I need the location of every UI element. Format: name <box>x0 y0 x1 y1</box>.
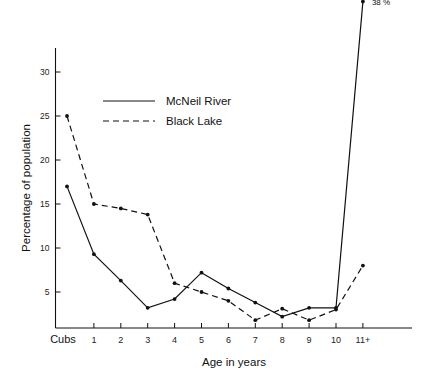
legend-label-black-lake: Black Lake <box>166 115 222 127</box>
data-point-marker <box>119 207 123 211</box>
data-point-marker <box>173 297 177 301</box>
y-tick-label: 25 <box>40 111 50 121</box>
x-tick-label: 10 <box>331 335 341 345</box>
data-point-marker <box>146 213 150 217</box>
data-point-marker <box>307 306 311 310</box>
y-tick-label: 20 <box>40 155 50 165</box>
x-tick-label: 1 <box>91 335 96 345</box>
x-axis-title: Age in years <box>202 356 266 368</box>
x-tick-label: 7 <box>253 335 258 345</box>
data-point-marker <box>253 318 257 322</box>
chart-figure: 51015202530 Cubs1234567891011+ Percentag… <box>0 0 428 387</box>
data-point-marker <box>173 281 177 285</box>
annotations-layer: 38 % <box>372 0 390 7</box>
x-tick-label: 4 <box>172 335 177 345</box>
chart-background <box>0 0 428 387</box>
data-point-marker <box>227 299 231 303</box>
data-point-marker <box>227 287 231 291</box>
y-axis-title: Percentage of population <box>20 124 32 252</box>
data-point-marker <box>92 252 96 256</box>
x-tick-label: 8 <box>280 335 285 345</box>
data-point-marker <box>200 290 204 294</box>
x-tick-label: 6 <box>226 335 231 345</box>
data-point-marker <box>280 315 284 319</box>
data-point-marker <box>361 264 365 268</box>
x-tick-label: 3 <box>145 335 150 345</box>
data-point-marker <box>334 308 338 312</box>
data-point-marker <box>119 279 123 283</box>
data-point-marker <box>280 307 284 311</box>
y-tick-label: 5 <box>45 287 50 297</box>
x-tick-label: 5 <box>199 335 204 345</box>
x-tick-label: 9 <box>307 335 312 345</box>
y-tick-label: 15 <box>40 199 50 209</box>
data-point-marker <box>307 318 311 322</box>
legend-label-mcneil-river: McNeil River <box>166 95 231 107</box>
x-tick-label: 11+ <box>356 335 371 345</box>
data-point-marker <box>65 114 69 118</box>
data-point-marker <box>146 306 150 310</box>
annotation-label: 38 % <box>372 0 390 7</box>
x-tick-label: 2 <box>118 335 123 345</box>
x-tick-label: Cubs <box>50 333 76 345</box>
data-point-marker <box>200 271 204 275</box>
data-point-marker <box>253 301 257 305</box>
data-point-marker <box>65 185 69 189</box>
y-tick-label: 10 <box>40 243 50 253</box>
data-point-marker <box>92 202 96 206</box>
y-tick-label: 30 <box>40 67 50 77</box>
line-chart-canvas: 51015202530 Cubs1234567891011+ Percentag… <box>0 0 428 387</box>
